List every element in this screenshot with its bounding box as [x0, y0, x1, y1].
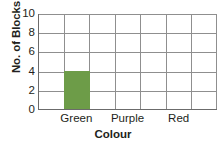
y-tick-label: 6 [14, 46, 35, 58]
bar-chart: No. of Blocks 0246810 GreenPurpleRed Col… [0, 0, 217, 145]
gridline-vertical [115, 14, 116, 110]
y-axis-tick-labels: 0246810 [14, 14, 35, 110]
gridline-vertical [140, 14, 141, 110]
gridline-vertical [216, 14, 217, 110]
x-axis-line [38, 109, 217, 110]
x-axis-tick-labels: GreenPurpleRed [38, 111, 217, 126]
x-tick-label-red: Red [149, 111, 209, 126]
gridline-vertical [191, 14, 192, 110]
gridline-vertical [166, 14, 167, 110]
y-tick-label: 4 [14, 66, 35, 78]
y-tick-label: 0 [14, 104, 35, 116]
y-tick-label: 2 [14, 85, 35, 97]
y-axis-line [38, 14, 39, 110]
y-tick-label: 10 [14, 8, 35, 20]
plot-area [38, 14, 217, 110]
x-axis-title: Colour [38, 127, 188, 141]
bar-green [64, 71, 90, 109]
y-tick-label: 8 [14, 27, 35, 39]
